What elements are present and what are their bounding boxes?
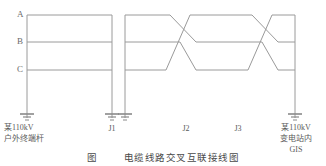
conductor-a-section-3 [208, 15, 295, 42]
right-terminal-label-line-2: 变电站内 [268, 134, 324, 145]
section-2-conductors [125, 15, 208, 70]
joint-label-j3: J3 [229, 124, 247, 134]
section-3-conductors [208, 15, 295, 70]
phase-label-a: A [17, 10, 24, 19]
phase-label-b: B [17, 37, 23, 46]
left-terminal-label-line-1: 某110kV [4, 123, 66, 134]
figure-caption: 图电缆线路交叉互联接线图 [0, 150, 326, 164]
phase-label-c: C [17, 65, 23, 74]
figure-caption-prefix: 图 [87, 153, 98, 163]
conductor-b-section-2 [125, 42, 208, 70]
joint-label-j1: J1 [103, 124, 121, 134]
figure-caption-text: 电缆线路交叉互联接线图 [124, 153, 240, 163]
conductor-a-section-2 [125, 15, 208, 42]
left-terminal-label-line-2: 户外终端杆 [4, 134, 66, 145]
conductor-b-section-3 [208, 42, 295, 70]
ground-symbol-group [20, 114, 302, 120]
joint-label-j2: J2 [177, 124, 195, 134]
left-terminal-label: 某110kV 户外终端杆 [4, 123, 66, 145]
right-terminal-label-line-1: 某110kV [268, 123, 324, 134]
figure-container: A B C 某110kV 户外终端杆 J1 J2 J3 某110kV 变电站内 … [0, 0, 326, 166]
section-1-conductors [27, 15, 112, 70]
pole-group [27, 15, 295, 118]
